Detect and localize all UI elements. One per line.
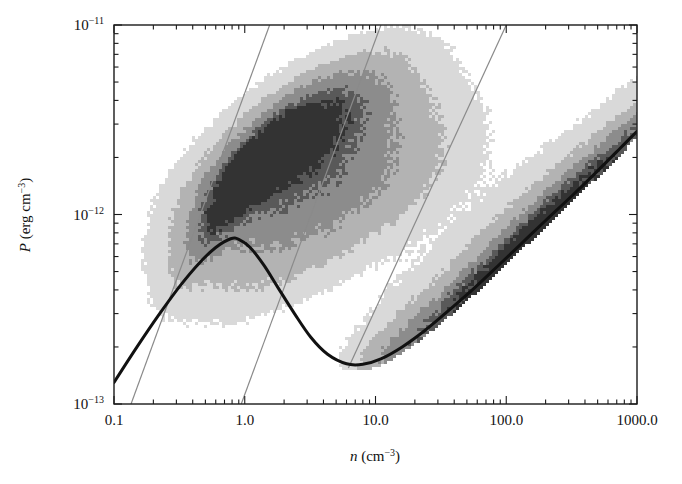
density-cell [510,256,513,259]
density-cell [300,259,303,262]
density-cell [309,190,312,193]
density-cell [180,232,183,235]
density-cell [249,172,252,175]
density-cell [363,247,366,250]
density-cell [225,172,228,175]
density-cell [348,193,351,196]
density-cell [291,199,294,202]
density-cell [399,307,402,310]
density-cell [300,112,303,115]
density-cell [234,196,237,199]
density-cell [366,157,369,160]
density-cell [618,133,621,136]
density-cell [393,133,396,136]
density-cell [213,211,216,214]
density-cell [573,148,576,151]
density-cell [270,94,273,97]
density-cell [219,187,222,190]
density-cell [366,145,369,148]
density-cell [279,226,282,229]
density-cell [426,220,429,223]
density-cell [600,118,603,121]
density-cell [585,115,588,118]
density-cell [342,58,345,61]
density-cell [465,250,468,253]
density-cell [507,211,510,214]
density-cell [447,211,450,214]
density-cell [486,214,489,217]
density-cell [159,184,162,187]
density-cell [480,253,483,256]
density-cell [546,172,549,175]
density-cell [261,85,264,88]
density-cell [219,190,222,193]
density-cell [333,235,336,238]
density-cell [381,220,384,223]
density-cell [150,220,153,223]
density-cell [336,238,339,241]
density-cell [285,160,288,163]
density-cell [204,166,207,169]
density-cell [183,196,186,199]
density-cell [165,280,168,283]
density-cell [270,307,273,310]
density-cell [225,226,228,229]
density-cell [363,115,366,118]
density-cell [246,199,249,202]
density-cell [162,217,165,220]
density-cell [174,181,177,184]
density-cell [585,175,588,178]
density-cell [276,163,279,166]
density-cell [243,139,246,142]
density-cell [279,148,282,151]
density-cell [441,271,444,274]
density-cell [213,298,216,301]
density-cell [417,106,420,109]
density-cell [315,292,318,295]
density-cell [228,280,231,283]
density-cell [453,196,456,199]
density-cell [180,157,183,160]
density-cell [378,40,381,43]
density-cell [564,181,567,184]
density-cell [267,295,270,298]
density-cell [591,136,594,139]
density-cell [453,259,456,262]
density-cell [426,55,429,58]
density-cell [237,280,240,283]
density-cell [555,166,558,169]
density-cell [207,127,210,130]
density-cell [297,109,300,112]
density-cell [201,217,204,220]
density-cell [354,250,357,253]
density-cell [366,226,369,229]
density-cell [345,355,348,358]
density-cell [306,274,309,277]
density-cell [243,274,246,277]
density-cell [255,148,258,151]
density-cell [168,277,171,280]
density-cell [501,193,504,196]
density-cell [210,295,213,298]
density-cell [537,172,540,175]
density-cell [477,178,480,181]
density-cell [192,262,195,265]
density-cell [366,367,369,370]
density-cell [369,61,372,64]
density-cell [486,262,489,265]
density-cell [522,226,525,229]
density-cell [633,97,636,100]
density-cell [261,235,264,238]
density-cell [393,298,396,301]
density-cell [441,262,444,265]
density-cell [405,298,408,301]
density-cell [237,208,240,211]
density-cell [435,283,438,286]
density-cell [261,298,264,301]
density-cell [474,148,477,151]
density-cell [318,256,321,259]
density-cell [330,133,333,136]
density-cell [273,79,276,82]
density-cell [339,199,342,202]
density-cell [195,217,198,220]
